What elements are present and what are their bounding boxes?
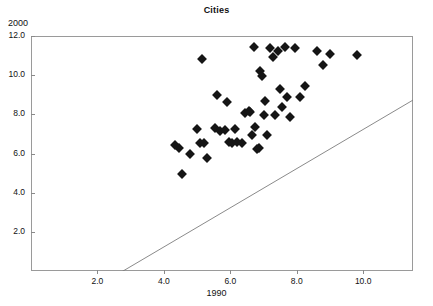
x-axis-label: 1990 xyxy=(0,288,433,298)
data-point-marker xyxy=(290,43,300,53)
data-point-marker xyxy=(352,50,362,60)
data-point-marker xyxy=(197,54,207,64)
y-axis-label: 2000 xyxy=(8,18,28,28)
data-point-marker xyxy=(325,49,335,59)
x-tick-label: 2.0 xyxy=(82,276,112,286)
x-tick-label: 8.0 xyxy=(282,276,312,286)
x-tick-label: 6.0 xyxy=(215,276,245,286)
data-point-marker xyxy=(312,46,322,56)
chart-figure: Cities 2000 1990 2.04.06.08.010.012.02.0… xyxy=(0,0,433,306)
y-tick-label: 10.0 xyxy=(1,69,25,79)
data-point-marker xyxy=(318,60,328,70)
x-tick-label: 4.0 xyxy=(149,276,179,286)
y-tick-label: 12.0 xyxy=(1,30,25,40)
y-tick-label: 8.0 xyxy=(1,108,25,118)
plot-area xyxy=(31,36,413,271)
y-tick-label: 6.0 xyxy=(1,148,25,158)
y-tick-label: 2.0 xyxy=(1,226,25,236)
page-title: Cities xyxy=(0,5,433,15)
data-point-marker xyxy=(249,42,259,52)
identity-reference-line xyxy=(62,72,413,271)
x-tick-label: 10.0 xyxy=(348,276,378,286)
y-tick-label: 4.0 xyxy=(1,187,25,197)
